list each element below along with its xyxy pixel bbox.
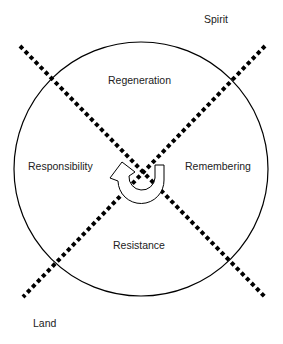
label-land: Land [33,317,56,329]
label-spirit: Spirit [204,13,228,25]
label-regeneration: Regeneration [108,74,171,86]
label-resistance: Resistance [113,239,165,251]
label-remembering: Remembering [185,160,251,172]
label-responsibility: Responsibility [28,160,93,172]
diagram-canvas [0,0,283,344]
